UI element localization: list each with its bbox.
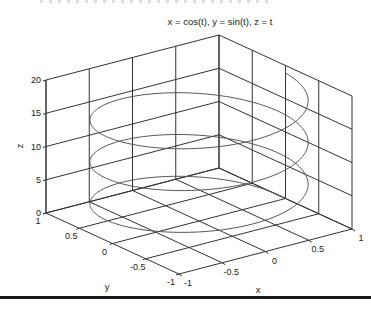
grid-line xyxy=(143,259,146,260)
y-tick-label: 0.5 xyxy=(65,231,78,241)
grid-line xyxy=(76,228,79,229)
x-tick-label: 0 xyxy=(272,256,277,266)
z-tick-label: 20 xyxy=(31,75,41,85)
grid-line xyxy=(43,213,46,214)
axes-grid xyxy=(43,35,355,276)
z-tick-label: 10 xyxy=(31,142,41,152)
chart-title: x = cos(t), y = sin(t), z = t xyxy=(168,16,273,27)
y-tick-label: 0 xyxy=(102,247,107,257)
helix-3d-plot: 05101520-1-0.500.5110.50-0.5-1 x = cos(t… xyxy=(0,0,371,310)
x-tick-label: -1 xyxy=(184,278,192,288)
y-tick-label: -1 xyxy=(167,277,175,287)
bottom-divider xyxy=(0,296,371,299)
grid-line xyxy=(266,252,269,254)
y-tick-label: 1 xyxy=(35,216,40,226)
grid-line xyxy=(113,199,286,244)
x-axis-label: x xyxy=(256,284,261,295)
z-tick-label: 15 xyxy=(31,108,41,118)
grid-line xyxy=(146,214,319,259)
grid-line xyxy=(176,274,179,275)
grid-line xyxy=(352,229,355,231)
x-tick-label: -0.5 xyxy=(223,267,239,277)
helix-line xyxy=(90,73,308,232)
z-tick-label: 5 xyxy=(36,175,41,185)
y-axis-label: y xyxy=(105,281,110,292)
z-axis-label: z xyxy=(14,143,25,148)
grid-line xyxy=(309,240,312,242)
x-tick-label: 0.5 xyxy=(311,244,324,254)
x-tick-label: 1 xyxy=(358,233,363,243)
helix-curve xyxy=(90,73,308,232)
y-tick-label: -0.5 xyxy=(130,262,146,272)
grid-line xyxy=(222,263,225,265)
grid-line xyxy=(179,274,182,276)
grid-line xyxy=(110,244,113,245)
